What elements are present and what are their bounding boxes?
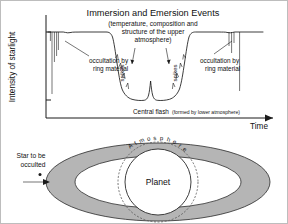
planet-label: Planet <box>146 177 171 187</box>
y-axis-label: Intensity of starlight <box>8 31 17 102</box>
right-ring-occultation-annotation: occultation by ring material <box>200 41 240 73</box>
chart-subtitle-line-1: (temperature, composition and <box>108 20 198 28</box>
right-annotation-line-1: occultation by <box>200 57 240 65</box>
lightcurve-panel: Immersion and Emersion Events (temperatu… <box>8 8 273 131</box>
central-flash-label: Central flash <box>133 108 169 115</box>
chart-title: Immersion and Emersion Events <box>87 8 220 18</box>
right-annotation-leader-line <box>214 41 232 54</box>
star-label-line-1: Star to be <box>17 152 46 159</box>
right-spikes-label: spikes <box>172 64 178 81</box>
left-annotation-leader-line <box>65 41 89 56</box>
atmosphere-letter-5: s <box>153 135 157 141</box>
central-flash-arrow-left-icon <box>130 59 134 64</box>
atmosphere-letter-4: o <box>146 135 151 142</box>
atmosphere-letter-6: p <box>160 135 165 141</box>
x-axis-label: Time <box>250 122 268 131</box>
chart-subtitle-line-3: atmosphere) <box>134 36 171 44</box>
right-annotation-line-2: ring material <box>205 65 240 73</box>
central-flash-arrow-right-icon <box>167 59 171 64</box>
left-ring-spikes-group <box>50 32 58 94</box>
left-spikes-label: spikes <box>119 64 125 81</box>
occultation-figure: Immersion and Emersion Events (temperatu… <box>1 1 287 223</box>
left-annotation-line-1: occultation by <box>89 57 129 65</box>
central-flash-note: (formed by lower atmosphere) <box>172 109 240 115</box>
central-flash-leaders <box>130 48 170 64</box>
x-axis-arrow-icon <box>265 115 273 122</box>
star-annotation-group: Star to be occulted <box>17 152 51 185</box>
chart-subtitle-line-2: structure of the upper <box>122 28 185 36</box>
atmosphere-letter-7: h <box>166 136 171 143</box>
figure-root: Immersion and Emersion Events (temperatu… <box>0 0 288 224</box>
flank-spike-right-b <box>180 63 183 69</box>
flank-spike-right-d <box>172 83 175 89</box>
geometry-panel: A t m o s p h e r e Planet Star to be oc… <box>17 135 271 222</box>
star-label-line-2: occulted <box>21 161 46 168</box>
star-dot-icon <box>39 173 42 176</box>
flank-spike-left-d <box>126 83 129 89</box>
